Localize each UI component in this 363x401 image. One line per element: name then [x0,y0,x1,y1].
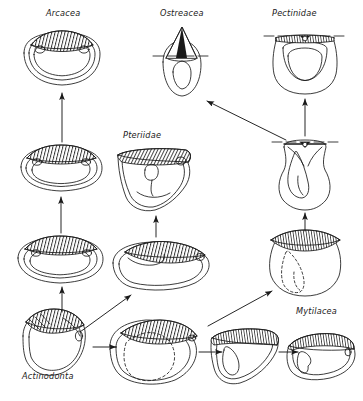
specimen-arca-shell-top [24,31,100,85]
label-mytilacea: Mytilacea [296,306,337,316]
specimen-mytilid-shell-mid [113,241,209,290]
specimen-pecten-ancestor-shell [272,140,340,210]
specimen-ostrea-shell-top [153,27,208,96]
specimen-actinodonta-shell [23,309,85,375]
specimen-pecten-shell-top [264,35,348,94]
specimen-mytilacea-shell [287,334,355,380]
specimen-mytilid-shell-a [110,320,197,384]
arrow-ancestor-to-ostrea [207,101,286,140]
specimen-pteria-shell [118,149,191,211]
label-ostreacea: Ostreacea [160,8,204,18]
arrow-mytilidA-to-pecten-base [208,291,272,326]
figure-canvas [0,0,363,401]
label-pteriidae: Pteriidae [123,130,161,140]
specimen-arca-shell-mid [21,145,102,191]
label-pectinidae: Pectinidae [272,8,317,18]
specimen-pecten-base-shell [270,230,341,296]
bivalve-evolution-figure: Arcacea Ostreacea Pectinidae Pteriidae M… [0,0,363,401]
label-actinodonta: Actinodonta [22,371,74,381]
label-arcacea: Arcacea [46,8,80,18]
specimen-arca-shell-lower [18,236,103,283]
specimen-mytilid-shell-b [211,329,279,384]
